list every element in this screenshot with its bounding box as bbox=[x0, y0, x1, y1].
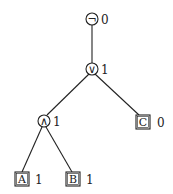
or-symbol-icon: ∨ bbox=[88, 63, 96, 76]
node-a: A 1 bbox=[15, 172, 43, 187]
node-value: 1 bbox=[35, 173, 43, 187]
node-or: ∨ 1 bbox=[86, 63, 109, 77]
edge-and-b bbox=[46, 127, 72, 172]
node-value: 1 bbox=[53, 115, 61, 129]
node-value: 1 bbox=[101, 63, 109, 77]
edge-and-a bbox=[22, 127, 42, 172]
edge-or-c bbox=[95, 74, 139, 115]
variable-label: C bbox=[139, 116, 147, 129]
node-value: 0 bbox=[101, 13, 109, 27]
node-not: ¬ 0 bbox=[86, 13, 109, 27]
node-value: 0 bbox=[157, 116, 165, 130]
node-value: 1 bbox=[86, 173, 94, 187]
variable-label: A bbox=[17, 173, 27, 186]
edge-or-and bbox=[47, 74, 89, 115]
node-and: ∧ 1 bbox=[38, 115, 61, 129]
node-c: C 0 bbox=[136, 115, 165, 130]
node-b: B 1 bbox=[66, 172, 94, 187]
and-symbol-icon: ∧ bbox=[40, 115, 48, 128]
variable-label: B bbox=[69, 173, 77, 186]
not-symbol-icon: ¬ bbox=[87, 13, 96, 26]
logic-tree-diagram: ¬ 0 ∨ 1 ∧ 1 C 0 A 1 B 1 bbox=[0, 0, 173, 194]
